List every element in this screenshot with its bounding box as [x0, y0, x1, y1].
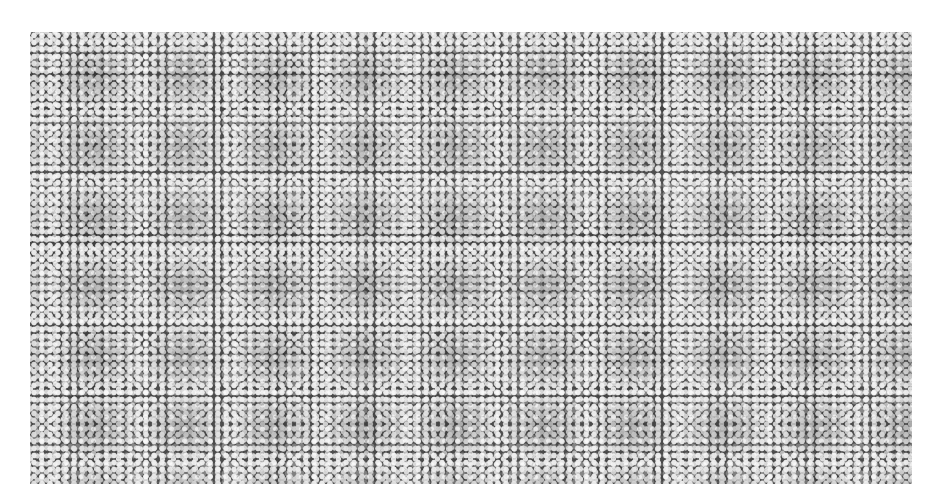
packed-spheres-image	[30, 32, 912, 484]
